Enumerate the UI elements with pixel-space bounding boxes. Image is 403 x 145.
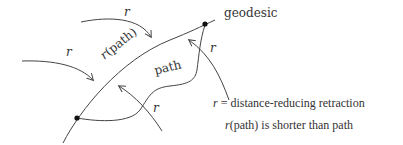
geodesic-curve bbox=[63, 20, 215, 143]
retraction-arrow-top-left bbox=[81, 19, 151, 37]
r-label-right: r bbox=[210, 42, 216, 54]
retraction-arrow-left bbox=[22, 61, 93, 80]
legend-line-2: r(path) is shorter than path bbox=[225, 119, 353, 131]
legend-line-2-text: (path) is shorter than path bbox=[230, 118, 353, 132]
endpoint-dot-top bbox=[202, 21, 207, 26]
r-label-bottom: r bbox=[153, 102, 159, 114]
geodesic-label: geodesic bbox=[224, 7, 278, 19]
r-label-left: r bbox=[66, 46, 72, 58]
retraction-arrow-right bbox=[189, 40, 229, 100]
legend-line-1: r = distance-reducing retraction bbox=[213, 97, 365, 109]
legend-line-1-text: = distance-reducing retraction bbox=[218, 96, 365, 110]
r-label-top-left: r bbox=[124, 6, 130, 18]
path-curve bbox=[77, 25, 205, 121]
endpoint-dot-bottom bbox=[74, 115, 79, 120]
